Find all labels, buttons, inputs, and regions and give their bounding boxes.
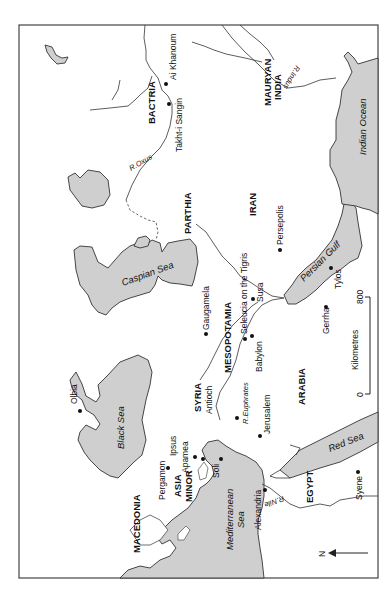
label-asia: ASIA: [172, 474, 183, 497]
label-seleucia: Seleucia on the Tigris: [239, 253, 249, 334]
label-antioch: Antioch: [204, 385, 214, 414]
label-ai-khanoum: Ai Khanoum: [168, 34, 178, 80]
label-alexandria: Alexandria: [253, 490, 263, 530]
label-indian-ocean: Indian Ocean: [357, 98, 368, 155]
label-bactria: BACTRIA: [146, 81, 157, 124]
label-macedonia: MACEDONIA: [131, 494, 142, 553]
label-syene: Syene: [354, 476, 364, 500]
label-egypt: EGYPT: [304, 471, 315, 503]
label-india: INDIA: [272, 74, 283, 100]
label-black-sea: Black Sea: [115, 406, 126, 449]
label-jerusalem: Jerusalem: [262, 395, 272, 434]
label-iran: IRAN: [247, 193, 258, 216]
north-label: N: [317, 551, 327, 557]
label-river-euphrates: R.Euphrates: [241, 382, 250, 424]
label-mediterranean: Mediterranean: [224, 489, 235, 550]
indus-tributary-2: [240, 25, 274, 60]
label-tylos: Tylos: [333, 269, 343, 289]
label-olbia: Olbia: [69, 384, 79, 404]
label-syria: SYRIA: [192, 383, 203, 412]
scale-bar: [365, 297, 370, 394]
label-mediterranean-sea: Sea: [235, 511, 246, 528]
label-takht-i-sangin: Takht-i Sangin: [174, 98, 184, 152]
label-persepolis: Persepolis: [275, 205, 285, 245]
lake-aral-fragment: [45, 45, 68, 64]
indus-tributary-1: [192, 42, 262, 62]
label-mesopotamia: MESOPOTAMIA: [222, 302, 233, 373]
label-minor: MINOR: [183, 470, 194, 502]
north-arrow: [328, 549, 368, 557]
caspian-bay: [134, 236, 150, 248]
map-canvas: BACTRIA MAURYAN INDIA PARTHIA IRAN MESOP…: [0, 0, 392, 592]
indian-ocean: [330, 52, 378, 214]
scale-min-label: 0: [355, 392, 365, 397]
label-parthia: PARTHIA: [182, 192, 193, 234]
scale-unit-label: Kilometres: [350, 330, 360, 370]
label-ipsus: Ipsus: [168, 436, 178, 456]
label-river-nile: R.Nile: [263, 494, 285, 509]
label-babylon: Babylon: [254, 341, 264, 372]
label-gaugamela: Gaugamela: [201, 286, 211, 330]
label-apamea: Apamea: [180, 441, 190, 473]
cyprus-island: [198, 462, 208, 480]
parthia-border: [126, 200, 158, 240]
oxus-tributary: [90, 76, 152, 110]
aral-sea: [68, 170, 110, 208]
scale-max-label: 800: [355, 290, 365, 304]
label-arabia: ARABIA: [296, 368, 307, 405]
label-pergamon: Pergamon: [157, 461, 167, 500]
label-gerrha: Gerrha: [321, 307, 331, 334]
label-soli: Soli: [211, 464, 221, 478]
oxus-side: [112, 80, 120, 100]
black-sea: [70, 355, 152, 478]
label-susa: Susa: [255, 282, 265, 302]
